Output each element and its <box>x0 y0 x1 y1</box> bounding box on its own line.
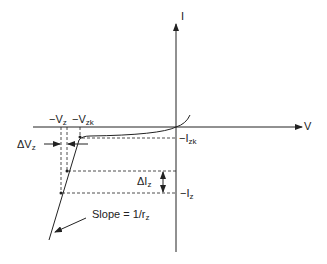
iz-point <box>60 192 63 195</box>
diagram-canvas <box>0 0 327 264</box>
delta-vz-label: ΔVz <box>17 139 36 152</box>
slope-arrow <box>55 218 86 232</box>
upper-point <box>66 170 69 173</box>
slope-label: Slope = 1/rz <box>92 209 150 222</box>
neg-vz-label: −Vz <box>49 114 67 127</box>
neg-izk-label: −Izk <box>179 133 196 146</box>
neg-iz-label: −Iz <box>180 188 193 201</box>
forward-curve <box>176 115 190 127</box>
zener-iv-diagram: I V −Vz −Vzk ΔVz −Izk ΔIz −Iz Slope = 1/… <box>0 0 327 264</box>
y-axis-label: I <box>181 11 184 22</box>
neg-vzk-label: −Vzk <box>72 114 94 127</box>
knee-point <box>79 136 82 139</box>
x-axis-label: V <box>304 121 311 132</box>
delta-iz-label: ΔIz <box>137 176 151 189</box>
